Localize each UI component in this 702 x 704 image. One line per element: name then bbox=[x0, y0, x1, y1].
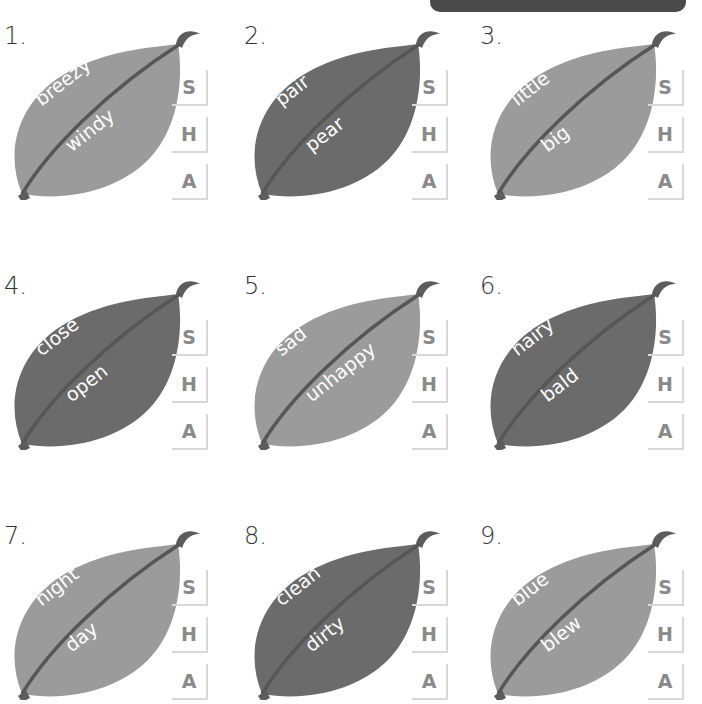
leaf-item-5: 5. sad unhappy S H A bbox=[240, 270, 477, 520]
option-s-box[interactable]: S bbox=[172, 70, 208, 106]
option-a-box[interactable]: A bbox=[172, 414, 208, 450]
leaf-item-4: 4. close open S H A bbox=[0, 270, 237, 520]
option-s-box[interactable]: S bbox=[412, 320, 448, 356]
option-h-box[interactable]: H bbox=[648, 617, 684, 653]
option-s-box[interactable]: S bbox=[172, 570, 208, 606]
option-s-box[interactable]: S bbox=[648, 320, 684, 356]
option-h-box[interactable]: H bbox=[172, 617, 208, 653]
leaf-item-1: 1. breezy windy S H A bbox=[0, 20, 237, 270]
option-h-box[interactable]: H bbox=[172, 117, 208, 153]
option-a-box[interactable]: A bbox=[412, 414, 448, 450]
option-h-box[interactable]: H bbox=[412, 617, 448, 653]
option-a-box[interactable]: A bbox=[648, 164, 684, 200]
leaf-item-7: 7. night day S H A bbox=[0, 520, 237, 704]
leaf-item-6: 6. hairy bald S H A bbox=[476, 270, 702, 520]
leaf-item-3: 3. little big S H A bbox=[476, 20, 702, 270]
option-s-box[interactable]: S bbox=[648, 70, 684, 106]
option-a-box[interactable]: A bbox=[412, 164, 448, 200]
leaf-item-9: 9. blue blew S H A bbox=[476, 520, 702, 704]
option-a-box[interactable]: A bbox=[648, 414, 684, 450]
option-h-box[interactable]: H bbox=[648, 117, 684, 153]
option-a-box[interactable]: A bbox=[648, 664, 684, 700]
option-h-box[interactable]: H bbox=[172, 367, 208, 403]
leaf-item-8: 8. clean dirty S H A bbox=[240, 520, 477, 704]
option-h-box[interactable]: H bbox=[412, 367, 448, 403]
option-h-box[interactable]: H bbox=[648, 367, 684, 403]
option-a-box[interactable]: A bbox=[412, 664, 448, 700]
leaf-item-2: 2. pair pear S H A bbox=[240, 20, 477, 270]
option-h-box[interactable]: H bbox=[412, 117, 448, 153]
option-s-box[interactable]: S bbox=[648, 570, 684, 606]
option-s-box[interactable]: S bbox=[172, 320, 208, 356]
option-a-box[interactable]: A bbox=[172, 664, 208, 700]
option-s-box[interactable]: S bbox=[412, 70, 448, 106]
header-banner bbox=[430, 0, 686, 12]
option-s-box[interactable]: S bbox=[412, 570, 448, 606]
option-a-box[interactable]: A bbox=[172, 164, 208, 200]
